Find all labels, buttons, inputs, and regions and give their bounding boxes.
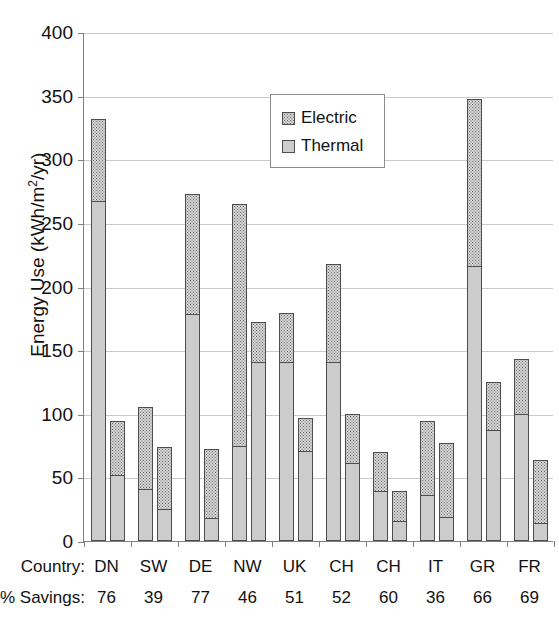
stacked-bar — [251, 322, 266, 541]
bar-segment-electric — [374, 453, 387, 492]
y-axis-tick-mark — [78, 288, 84, 289]
x-axis-tick-mark — [84, 541, 85, 547]
bar-segment-electric — [393, 492, 406, 521]
bar-segment-electric — [299, 419, 312, 452]
bar-segment-electric — [421, 422, 434, 496]
gridline — [84, 33, 553, 34]
country-cell: DN — [83, 557, 130, 577]
x-axis-tick-mark — [272, 541, 273, 547]
bar-segment-electric — [534, 461, 547, 525]
x-axis-tick-mark — [554, 541, 555, 547]
country-row-label: Country: — [21, 557, 85, 577]
savings-row-label: % Savings: — [0, 588, 85, 608]
bar-segment-thermal — [468, 267, 481, 540]
legend-item-thermal: Thermal — [282, 132, 384, 160]
country-cell: SW — [130, 557, 177, 577]
x-axis-tick-mark — [225, 541, 226, 547]
bar-segment-thermal — [534, 524, 547, 540]
x-axis-tick-mark — [507, 541, 508, 547]
stacked-bar — [110, 421, 125, 541]
savings-cell: 36 — [412, 588, 459, 608]
bar-segment-electric — [139, 408, 152, 489]
stacked-bar — [486, 382, 501, 541]
bar-segment-thermal — [327, 363, 340, 540]
bar-segment-electric — [233, 205, 246, 447]
stacked-bar — [157, 447, 172, 541]
stacked-bar — [345, 414, 360, 541]
savings-cell: 69 — [506, 588, 553, 608]
y-axis-tick-mark — [78, 478, 84, 479]
chart-legend: Electric Thermal — [270, 94, 385, 168]
bar-segment-electric — [327, 265, 340, 363]
bar-segment-thermal — [186, 315, 199, 540]
bar-segment-thermal — [158, 510, 171, 540]
bar-segment-thermal — [515, 415, 528, 540]
legend-label-electric: Electric — [301, 108, 357, 128]
y-axis-tick-mark — [78, 33, 84, 34]
savings-row: % Savings: 76397746515260366669 — [0, 588, 559, 614]
country-cell: CH — [365, 557, 412, 577]
savings-cell: 52 — [318, 588, 365, 608]
legend-item-electric: Electric — [282, 104, 384, 132]
savings-cell: 76 — [83, 588, 130, 608]
country-cell: NW — [224, 557, 271, 577]
country-cell: FR — [506, 557, 553, 577]
bar-segment-electric — [468, 100, 481, 267]
x-axis-tick-mark — [460, 541, 461, 547]
bar-segment-electric — [186, 195, 199, 316]
legend-swatch-thermal-icon — [282, 140, 295, 153]
y-axis-tick-label: 0 — [7, 531, 73, 553]
gridline — [84, 351, 553, 352]
country-cell: UK — [271, 557, 318, 577]
bar-segment-thermal — [111, 476, 124, 540]
y-axis-tick-mark — [78, 97, 84, 98]
savings-cell: 46 — [224, 588, 271, 608]
country-cell: DE — [177, 557, 224, 577]
legend-swatch-electric-icon — [282, 112, 295, 125]
stacked-bar — [392, 491, 407, 541]
stacked-bar — [439, 443, 454, 541]
stacked-bar — [373, 452, 388, 541]
bar-segment-thermal — [92, 202, 105, 540]
stacked-bar — [91, 119, 106, 541]
y-axis-tick-mark — [78, 351, 84, 352]
savings-cell: 39 — [130, 588, 177, 608]
bar-segment-electric — [440, 444, 453, 518]
bar-segment-thermal — [205, 519, 218, 540]
gridline — [84, 288, 553, 289]
bar-segment-thermal — [233, 447, 246, 540]
gridline — [84, 478, 553, 479]
stacked-bar — [279, 313, 294, 541]
bar-segment-thermal — [487, 431, 500, 540]
y-axis-tick-mark — [78, 224, 84, 225]
x-axis-tick-mark — [131, 541, 132, 547]
gridline — [84, 224, 553, 225]
stacked-bar — [138, 407, 153, 541]
chart-figure: Energy Use (kWh/m2/yr) 05010015020025030… — [0, 0, 559, 638]
bar-segment-electric — [111, 422, 124, 475]
bar-segment-electric — [346, 415, 359, 465]
savings-cell: 77 — [177, 588, 224, 608]
stacked-bar — [514, 359, 529, 541]
savings-cell: 51 — [271, 588, 318, 608]
y-axis-tick-mark — [78, 160, 84, 161]
plot-area: Electric Thermal — [83, 33, 553, 542]
stacked-bar — [420, 421, 435, 541]
bar-segment-electric — [158, 448, 171, 510]
gridline — [84, 415, 553, 416]
bar-segment-thermal — [440, 518, 453, 540]
y-axis-title: Energy Use (kWh/m2/yr) — [26, 35, 49, 475]
stacked-bar — [326, 264, 341, 541]
stacked-bar — [533, 460, 548, 541]
x-axis-tick-mark — [413, 541, 414, 547]
x-axis-tick-mark — [178, 541, 179, 547]
savings-cell: 60 — [365, 588, 412, 608]
savings-cell: 66 — [459, 588, 506, 608]
stacked-bar — [232, 204, 247, 541]
bar-segment-electric — [515, 360, 528, 415]
bar-segment-thermal — [421, 496, 434, 540]
stacked-bar — [467, 99, 482, 541]
stacked-bar — [204, 449, 219, 541]
bar-segment-thermal — [252, 363, 265, 540]
bar-segment-electric — [92, 120, 105, 203]
